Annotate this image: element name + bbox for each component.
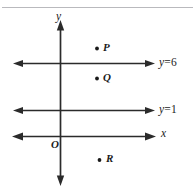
point-P-marker (95, 47, 99, 51)
line-y-equals-6 (13, 60, 155, 67)
coordinate-plane-figure: y x O y=6 y=1 P Q R (0, 0, 195, 192)
point-Q-marker (95, 77, 99, 81)
point-P-label: P (103, 42, 110, 53)
line-label-y-equals-1: y=1 (159, 104, 177, 116)
line-label-y-equals-1-equals: = (164, 103, 171, 115)
point-R-marker (98, 158, 102, 162)
line-label-y-equals-6: y=6 (159, 57, 177, 69)
y-axis-label: y (56, 11, 61, 23)
line-y-equals-1 (13, 107, 155, 114)
coordinate-plane-svg (0, 0, 195, 192)
y-axis (57, 20, 64, 186)
origin-label: O (51, 139, 59, 150)
x-axis (12, 133, 156, 141)
point-R-label: R (106, 153, 114, 164)
line-label-y-equals-6-equals: = (164, 56, 171, 68)
point-Q-label: Q (103, 72, 111, 83)
x-axis-label: x (161, 128, 166, 140)
line-label-y-equals-6-value: 6 (171, 56, 177, 68)
line-label-y-equals-1-value: 1 (171, 103, 177, 115)
